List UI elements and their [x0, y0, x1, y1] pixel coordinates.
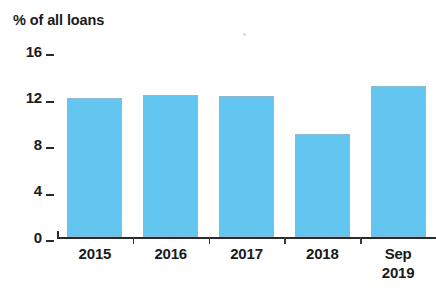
y-axis-tick-mark — [46, 101, 54, 103]
x-axis-tick-mark — [209, 237, 211, 244]
x-axis-category-label-line: 2016 — [154, 245, 187, 262]
x-axis-category-label: 2017 — [209, 244, 285, 263]
y-axis-tick-mark — [46, 240, 54, 242]
y-axis-tick-label: 12 — [26, 89, 42, 106]
y-axis-tick-label: 0 — [34, 229, 42, 246]
x-axis-category-label: 2015 — [57, 244, 133, 263]
x-axis-category-label: Sep2019 — [360, 244, 436, 282]
y-axis-tick-label: 8 — [34, 136, 42, 153]
x-axis-tick-mark — [284, 237, 286, 244]
y-axis-tick-mark — [46, 194, 54, 196]
bar — [143, 95, 198, 237]
y-axis: 0481216 — [0, 0, 57, 288]
bar — [219, 96, 274, 237]
x-axis-line — [57, 237, 436, 239]
y-axis-tick: 0 — [34, 228, 57, 246]
bars-layer — [57, 50, 436, 237]
y-axis-tick: 16 — [26, 42, 57, 60]
x-axis-category-label-line: Sep — [385, 245, 412, 262]
y-axis-tick: 4 — [34, 182, 57, 200]
y-axis-tick-label: 16 — [26, 43, 42, 60]
y-axis-tick-mark — [46, 147, 54, 149]
scan-artifact-speck — [243, 33, 246, 36]
x-axis-category-label-line: 2019 — [360, 263, 436, 282]
y-axis-tick: 8 — [34, 135, 57, 153]
x-axis-labels: 2015201620172018Sep2019 — [57, 244, 436, 288]
x-axis-tick-mark — [133, 237, 135, 244]
x-axis-category-label: 2018 — [284, 244, 360, 263]
x-axis-category-label-line: 2015 — [79, 245, 112, 262]
bar — [67, 98, 122, 238]
bar-chart: % of all loans 0481216 2015201620172018S… — [0, 0, 436, 288]
x-axis-category-label-line: 2018 — [306, 245, 339, 262]
x-axis-tick-mark — [360, 237, 362, 244]
x-axis-category-label: 2016 — [133, 244, 209, 263]
bar — [371, 86, 426, 237]
x-axis-category-label-line: 2017 — [230, 245, 263, 262]
y-axis-tick-label: 4 — [34, 182, 42, 199]
y-axis-tick-mark — [46, 54, 54, 56]
bar — [295, 134, 350, 237]
y-axis-tick: 12 — [26, 89, 57, 107]
